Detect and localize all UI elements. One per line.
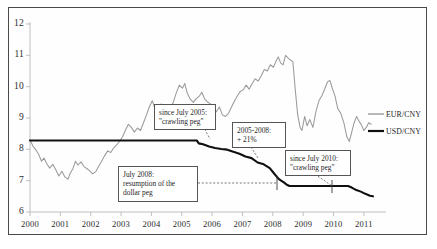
x-axis-tick-label: 2008	[256, 219, 290, 229]
annotation-text-line: "crawling peg"	[290, 163, 346, 172]
x-axis-tick-label: 2006	[195, 219, 229, 229]
annotation-crawling-peg-2010: since July 2010:"crawling peg"	[285, 150, 351, 176]
x-axis-tick-label: 2000	[13, 219, 47, 229]
annotation-crawling-peg-2005: since July 2005:"crawling peg"	[154, 104, 216, 130]
x-axis-tick-label: 2003	[104, 219, 138, 229]
x-axis-tick-label: 2001	[43, 219, 77, 229]
x-axis-tick-label: 2005	[165, 219, 199, 229]
y-axis-tick-label: 11	[8, 49, 24, 59]
y-axis-tick-label: 10	[8, 81, 24, 91]
x-axis-tick-label: 2007	[225, 219, 259, 229]
y-axis-tick-label: 6	[8, 206, 24, 216]
y-axis-tick-label: 8	[8, 143, 24, 153]
y-axis-tick-label: 12	[8, 18, 24, 28]
annotation-text-line: "crawling peg"	[159, 117, 211, 126]
chart-plot-area	[0, 0, 437, 249]
x-axis-tick-label: 2004	[134, 219, 168, 229]
x-axis-tick-label: 2009	[286, 219, 320, 229]
y-axis-tick-label: 9	[8, 112, 24, 122]
annotation-text-line: dollar peg	[123, 188, 193, 197]
annotation-text-line: July 2008:	[123, 170, 193, 179]
annotation-text-line: 2005-2008:	[237, 126, 281, 135]
x-axis-tick-label: 2002	[74, 219, 108, 229]
annotation-text-line: since July 2010:	[290, 154, 346, 163]
y-axis-tick-label: 7	[8, 175, 24, 185]
x-axis-tick-label: 2011	[347, 219, 381, 229]
annotation-text-line: + 21%	[237, 135, 281, 144]
x-axis-tick-label: 2010	[317, 219, 351, 229]
legend-label-eur-cny: EUR/CNY	[386, 110, 421, 119]
annotation-appreciation-2005-2008: 2005-2008:+ 21%	[232, 122, 286, 148]
annotation-text-line: since July 2005:	[159, 108, 211, 117]
annotation-text-line: resumption of the	[123, 179, 193, 188]
annotation-dollar-peg-2008: July 2008:resumption of thedollar peg	[118, 166, 198, 202]
legend-label-usd-cny: USD/CNY	[386, 127, 421, 136]
chart-figure: 6789101112 20002001200220032004200520062…	[0, 0, 437, 249]
